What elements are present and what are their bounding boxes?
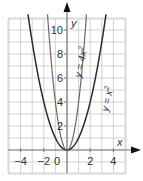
- parabola-chart: −4−2024246810 x y y = x2y = 4x2: [0, 0, 143, 181]
- curve-label: y = 4x2: [71, 46, 89, 80]
- y-tick-label: 10: [51, 24, 63, 36]
- y-tick-label: 6: [57, 72, 63, 84]
- curve-label: y = x2: [98, 85, 115, 113]
- x-tick-label: −2: [38, 155, 51, 167]
- x-tick-label: 4: [110, 155, 116, 167]
- x-axis-label: x: [116, 136, 123, 148]
- y-tick-label: 4: [57, 96, 63, 108]
- x-tick-label: −4: [14, 155, 27, 167]
- x-tick-label: 2: [87, 155, 93, 167]
- y-tick-label: 2: [57, 120, 63, 132]
- x-tick-label: 0: [54, 155, 60, 167]
- y-axis-arrow-icon: [64, 2, 71, 12]
- y-tick-label: 8: [57, 48, 63, 60]
- curve-labels: y = x2y = 4x2: [71, 46, 115, 114]
- x-axis-arrow-icon: [131, 147, 141, 154]
